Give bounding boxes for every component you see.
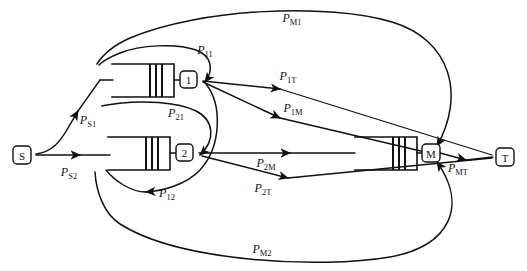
queue-station-m [355,137,423,170]
edge-label-p-2t: P2T [254,181,273,197]
edge-label-p-1m: P1M [282,101,303,117]
source-node[interactable]: S [13,146,31,164]
edge-label-p-11: P11 [196,43,213,59]
queue-station-2 [108,137,177,170]
sink-node[interactable]: T [496,148,514,166]
edge-source-to-station-1 [36,80,113,154]
source-node-label: S [19,150,25,162]
edge-label-p-21: P21 [167,106,184,122]
edge-station-1-to-station-2 [106,84,217,192]
station-m-node[interactable]: M [422,144,440,162]
edge-label-p-1t: P1T [279,69,298,85]
edge-label-p-2m: P2M [255,156,276,172]
edge-label-p-s1: PS1 [79,113,96,129]
edge-station-2-to-station-1 [102,102,211,155]
edge-label-p-mt: PMT [447,161,469,177]
station-2-node[interactable]: 2 [176,144,193,161]
sink-node-label: T [502,152,509,164]
edge-label-p-m2: PM2 [251,242,271,258]
edge-station-1-to-station-m [203,82,425,152]
station-1-node[interactable]: 1 [180,71,197,88]
edge-label-p-s2: PS2 [60,165,77,181]
network-svg: S 1 2 M T PS1 PS2 P11 P21 P12 P1T P1M P2… [0,0,527,271]
edge-station-m-to-station-2 [95,162,452,262]
queue-station-1 [112,64,181,97]
station-2-node-label: 2 [182,147,188,159]
station-m-node-label: M [426,148,436,160]
station-1-node-label: 1 [186,74,192,86]
edge-label-p-m1: PM1 [281,11,301,27]
queueing-network-diagram: S 1 2 M T PS1 PS2 P11 P21 P12 P1T P1M P2… [0,0,527,271]
